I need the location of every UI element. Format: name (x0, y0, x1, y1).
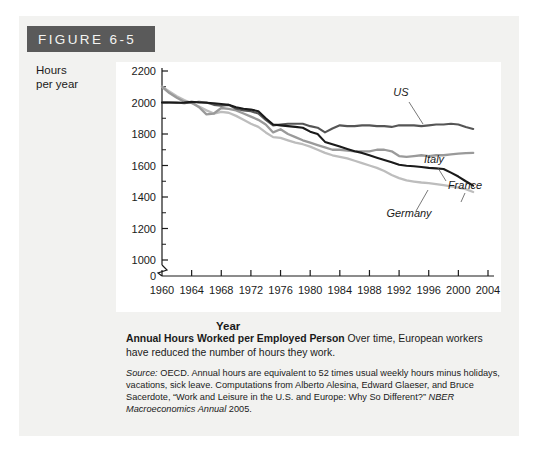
y-tick-label: 1200 (132, 223, 156, 235)
y-axis-title: Hours per year (36, 64, 106, 91)
caption-source: Source: OECD. Annual hours are equivalen… (126, 367, 506, 415)
y-tick-label: 1800 (132, 128, 156, 140)
y-tick-label: 1600 (132, 160, 156, 172)
series-line-italy (162, 87, 473, 157)
series-label-italy: Italy (424, 153, 446, 165)
x-tick-label: 1984 (328, 284, 352, 296)
line-chart: 2200200018001600140012001000019601964196… (116, 62, 501, 312)
x-tick-label: 1988 (357, 284, 381, 296)
x-tick-label: 1980 (298, 284, 322, 296)
x-tick-label: 1976 (268, 284, 292, 296)
y-tick-label: 2200 (132, 65, 156, 77)
source-year: 2005. (229, 404, 252, 414)
y-tick-label: 1400 (132, 191, 156, 203)
figure-number-label: FIGURE 6-5 (27, 32, 136, 47)
x-tick-label: 1992 (387, 284, 411, 296)
y-tick-label: 2000 (132, 97, 156, 109)
source-label: Source: (126, 368, 158, 378)
x-tick-label: 2000 (446, 284, 470, 296)
y-axis-title-line2: per year (36, 78, 106, 92)
x-tick-label: 1968 (209, 284, 233, 296)
x-tick-label: 1972 (239, 284, 263, 296)
series-label-france: France (448, 179, 482, 191)
x-axis-title: Year (216, 320, 240, 332)
y-axis-title-line1: Hours (36, 64, 106, 78)
caption-block: Annual Hours Worked per Employed Person … (126, 332, 506, 415)
y-tick-label-zero: 0 (150, 270, 156, 282)
x-tick-label: 2004 (476, 284, 500, 296)
series-label-germany: Germany (386, 207, 433, 219)
series-label-us: US (393, 86, 409, 98)
x-tick-label: 1960 (150, 284, 174, 296)
figure-number-banner: FIGURE 6-5 (27, 26, 155, 52)
series-line-us (162, 102, 473, 133)
plot-area: 2200200018001600140012001000019601964196… (116, 62, 501, 312)
caption-main: Annual Hours Worked per Employed Person … (126, 332, 506, 359)
y-tick-label: 1000 (132, 254, 156, 266)
x-tick-label: 1996 (416, 284, 440, 296)
caption-title: Annual Hours Worked per Employed Person (126, 333, 345, 344)
figure-container: FIGURE 6-5 Hours per year 22002000180016… (0, 0, 537, 451)
x-tick-label: 1964 (179, 284, 203, 296)
